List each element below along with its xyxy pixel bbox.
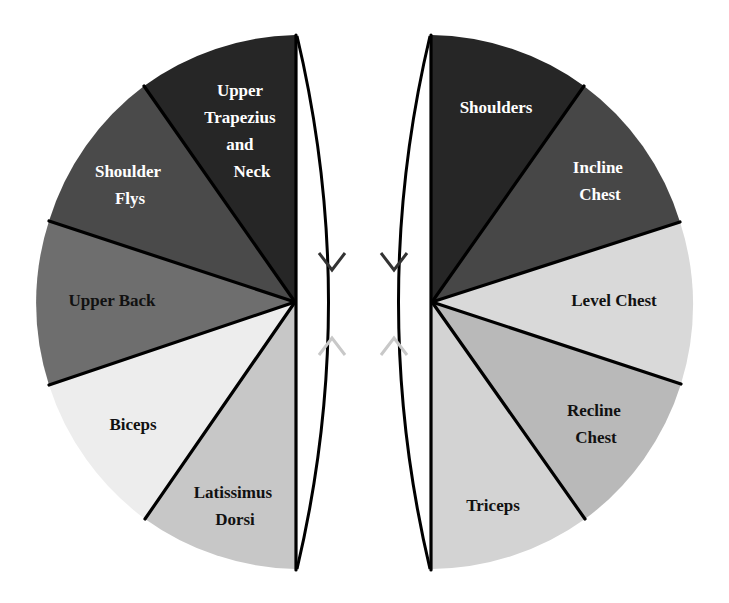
arrow-up-icon bbox=[319, 338, 345, 355]
arrow-down-icon bbox=[319, 253, 345, 270]
left-connector-arc bbox=[297, 36, 329, 569]
left-pie: Upper Trapezius and Neck Shoulder Flys U… bbox=[36, 35, 296, 570]
label-level-chest: Level Chest bbox=[571, 291, 657, 310]
arrow-up-icon bbox=[381, 338, 407, 355]
label-biceps: Biceps bbox=[109, 415, 157, 434]
muscle-group-diagram: Upper Trapezius and Neck Shoulder Flys U… bbox=[0, 0, 729, 603]
arrow-down-icon bbox=[381, 253, 407, 270]
label-triceps: Triceps bbox=[466, 496, 520, 515]
right-pie: Shoulders Incline Chest Level Chest Recl… bbox=[431, 35, 693, 570]
label-upper-back: Upper Back bbox=[68, 291, 156, 310]
connector-arcs bbox=[297, 36, 430, 569]
label-shoulders: Shoulders bbox=[460, 98, 533, 117]
right-connector-arc bbox=[399, 36, 431, 569]
